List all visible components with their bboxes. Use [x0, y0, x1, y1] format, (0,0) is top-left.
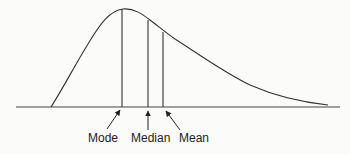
mean-label: Mean [179, 131, 209, 145]
diagram-canvas [0, 0, 350, 154]
mode-label: Mode [88, 131, 118, 145]
mean-arrow-icon [166, 111, 180, 130]
median-label: Median [131, 131, 170, 145]
skewed-distribution-diagram: Mode Median Mean [0, 0, 350, 154]
distribution-curve [51, 9, 328, 107]
mode-arrow-icon [107, 110, 120, 129]
